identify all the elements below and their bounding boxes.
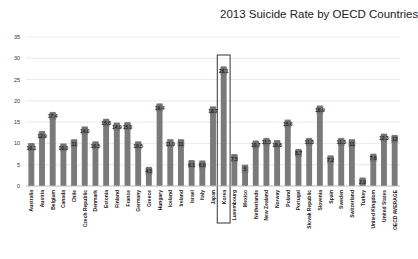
data-label: 15.6 — [283, 121, 293, 127]
x-tick-label: Mexico — [242, 190, 248, 207]
y-tick-label: 20 — [14, 98, 20, 104]
data-label: 14.9 — [112, 124, 122, 130]
data-label: 11.3 — [262, 139, 272, 145]
x-tick-label: Israel — [189, 189, 195, 203]
x-tick-label: United Kingdom — [370, 189, 376, 228]
x-tick-label: Greece — [146, 190, 152, 207]
bar — [39, 131, 45, 186]
x-tick-label: Japan — [210, 190, 216, 204]
x-tick-label: Norway — [274, 190, 280, 208]
bar — [221, 66, 227, 186]
data-label: 10.0 — [59, 145, 69, 151]
data-label: 5 — [244, 166, 247, 172]
y-tick-label: 5 — [17, 162, 20, 168]
x-tick-label: Austria — [39, 190, 45, 207]
x-tick-label: Denmark — [92, 190, 98, 212]
data-label: 11 — [178, 141, 184, 147]
y-tick-label: 10 — [14, 140, 20, 146]
data-label: 10.7 — [251, 142, 261, 148]
data-label: 15.0 — [123, 124, 133, 130]
bar — [210, 106, 216, 186]
bar — [157, 103, 163, 186]
data-label: 2.0 — [359, 179, 366, 185]
x-tick-label: Chile — [71, 190, 77, 202]
data-label: 10.8 — [272, 142, 282, 148]
x-tick-label: New Zealand — [263, 190, 269, 221]
data-label: 6.0 — [199, 162, 206, 168]
data-label: 10.1 — [26, 145, 36, 151]
x-tick-label: Turkey — [360, 190, 366, 206]
data-label: 7.5 — [231, 156, 238, 162]
data-label: 18.7 — [208, 108, 218, 114]
data-label: 11 — [71, 141, 77, 147]
data-label: 4.5 — [145, 168, 152, 174]
data-label: 18.9 — [315, 107, 325, 113]
x-tick-label: Estonia — [103, 190, 109, 208]
y-tick-label: 15 — [14, 119, 20, 125]
y-tick-label: 30 — [14, 55, 20, 61]
x-tick-label: Netherlands — [253, 190, 259, 219]
data-label: 17.4 — [48, 113, 58, 119]
data-label: 12 — [392, 136, 398, 142]
y-tick-label: 35 — [14, 34, 20, 40]
x-tick-label: Sweden — [338, 190, 344, 209]
data-label: 11.0 — [166, 141, 176, 147]
data-label: 19.4 — [155, 105, 165, 111]
data-label: 14.0 — [80, 128, 90, 134]
x-tick-label: Germany — [135, 190, 141, 212]
bar — [114, 123, 120, 186]
x-tick-label: United States — [381, 190, 387, 222]
y-tick-label: 0 — [17, 183, 20, 189]
data-label: 6.1 — [188, 162, 195, 168]
x-tick-label: Poland — [285, 190, 291, 207]
x-tick-label: Spain — [328, 190, 334, 204]
figure-caption — [130, 244, 132, 251]
x-tick-label: Ireland — [178, 190, 184, 206]
data-label: 8.7 — [295, 150, 302, 156]
data-label: 12.3 — [379, 135, 389, 141]
x-tick-label: Iceland — [167, 190, 173, 207]
x-tick-label: Hungary — [157, 190, 163, 211]
bar — [103, 119, 109, 186]
x-tick-label: Slovak Republic — [306, 190, 312, 229]
data-label: 10.5 — [133, 143, 143, 149]
y-tick-label: 25 — [14, 77, 20, 83]
x-tick-label: France — [125, 190, 131, 207]
data-label: 11.3 — [336, 139, 346, 145]
bar — [317, 106, 323, 186]
x-tick-label: Finland — [114, 190, 120, 208]
data-label: 10.5 — [91, 143, 101, 149]
x-tick-label: Switzerland — [349, 190, 355, 218]
x-tick-label: Luxembourg — [231, 190, 237, 220]
bar — [125, 122, 131, 186]
data-label: 11.3 — [304, 139, 314, 145]
data-label: 7.6 — [370, 155, 377, 161]
data-label: 12.9 — [37, 133, 47, 139]
x-tick-label: Italy — [199, 190, 205, 200]
x-tick-label: Slovenia — [317, 190, 323, 211]
x-tick-label: Czech Republic — [82, 190, 88, 227]
x-tick-label: Canada — [60, 190, 66, 208]
bar — [82, 126, 88, 186]
x-tick-label: Australia — [28, 190, 34, 212]
data-label: 7.2 — [327, 157, 334, 163]
x-tick-label: OECD AVERAGE — [392, 189, 398, 230]
x-tick-label: Korea — [221, 190, 227, 204]
x-tick-label: Belgium — [50, 189, 56, 209]
data-label: 15.8 — [101, 120, 111, 126]
data-label: 11 — [349, 141, 355, 147]
bar — [285, 120, 291, 186]
bar — [50, 112, 56, 186]
x-tick-label: Portugal — [295, 189, 301, 210]
data-label: 28.1 — [219, 68, 229, 74]
